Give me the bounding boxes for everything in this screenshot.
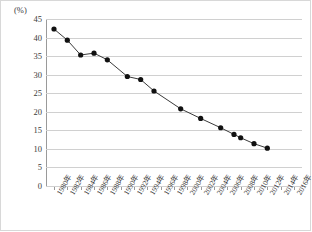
y-axis-tick-label: 0: [16, 182, 42, 191]
data-point-marker: [51, 26, 56, 31]
data-point-marker: [138, 77, 143, 82]
y-axis-tick-label: 5: [16, 163, 42, 172]
series-line: [54, 29, 267, 148]
data-point-marker: [91, 51, 96, 56]
data-point-marker: [65, 38, 70, 43]
y-axis-tick-label: 40: [16, 34, 42, 43]
data-point-marker: [178, 106, 183, 111]
y-axis-tick-label: 35: [16, 52, 42, 61]
data-point-marker: [238, 135, 243, 140]
data-point-marker: [218, 125, 223, 130]
y-axis-tick-label: 15: [16, 126, 42, 135]
data-point-marker: [125, 74, 130, 79]
data-point-marker: [78, 52, 83, 57]
data-point-marker: [198, 116, 203, 121]
line-series: [46, 19, 302, 186]
data-point-marker: [231, 132, 236, 137]
y-axis-tick-label: 20: [16, 108, 42, 117]
data-point-marker: [265, 146, 270, 151]
chart-root: (%) 051015202530354045 1980年1982年1984年19…: [0, 0, 312, 232]
data-point-marker: [251, 141, 256, 146]
data-point-marker: [151, 88, 156, 93]
y-axis-unit-label: (%): [14, 5, 27, 15]
y-axis-tick-label: 10: [16, 145, 42, 154]
y-axis-tick-label: 25: [16, 89, 42, 98]
y-axis-tick-label: 45: [16, 15, 42, 24]
data-point-marker: [105, 57, 110, 62]
y-axis-tick-label: 30: [16, 71, 42, 80]
